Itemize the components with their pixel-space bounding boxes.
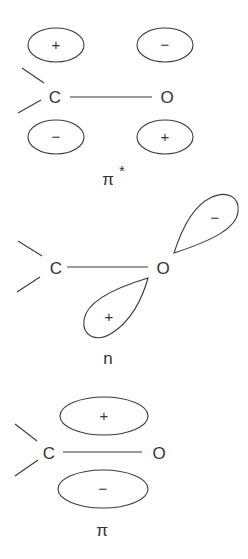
lobe-upper-right-teardrop: [174, 194, 238, 253]
atom-carbon: C: [49, 88, 61, 107]
sign-lower-left: +: [105, 308, 114, 325]
substituent-bond-upper: [22, 68, 44, 83]
atom-oxygen: O: [156, 259, 169, 278]
label-pi-star: π: [102, 170, 114, 189]
label-pi: π: [96, 521, 108, 540]
sign-above: +: [100, 407, 109, 424]
sign-lower-right: +: [161, 128, 170, 145]
lobe-lower-left-teardrop: [84, 278, 148, 338]
substituent-bond-lower: [15, 460, 38, 476]
sign-upper-right: −: [161, 36, 170, 53]
label-pi-star-superscript: *: [119, 162, 125, 179]
carbonyl-orbital-diagram: C O + − − + π * C O − + n C O: [0, 0, 248, 559]
sign-upper-left: +: [52, 36, 61, 53]
substituent-bond-upper: [18, 241, 42, 256]
sign-below: −: [99, 480, 108, 497]
atom-carbon: C: [43, 444, 55, 463]
panel-pi-star: C O + − − + π *: [18, 28, 193, 189]
substituent-bond-lower: [18, 100, 41, 113]
panel-n: C O − + n: [17, 194, 238, 368]
atom-oxygen: O: [160, 88, 173, 107]
substituent-bond-lower: [17, 277, 40, 292]
sign-lower-left: −: [52, 128, 61, 145]
panel-pi: C O + − π: [15, 397, 166, 540]
atom-oxygen: O: [152, 444, 165, 463]
substituent-bond-upper: [15, 424, 37, 441]
label-n: n: [103, 349, 112, 368]
atom-carbon: C: [50, 259, 62, 278]
sign-upper-right: −: [211, 209, 220, 226]
